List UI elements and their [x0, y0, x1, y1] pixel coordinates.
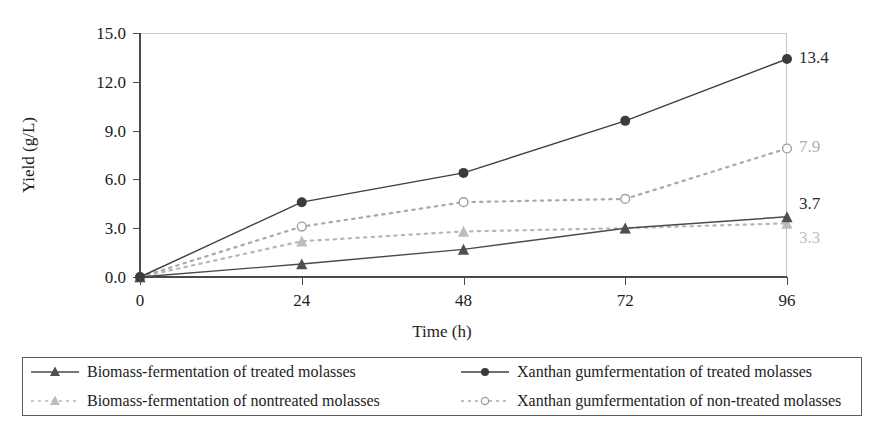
x-axis-tick-label: 24 — [282, 292, 322, 309]
x-axis-tick-label: 0 — [120, 292, 160, 309]
y-axis-tick-label: 6.0 — [105, 171, 126, 188]
x-axis-tick-label: 72 — [605, 292, 645, 309]
legend-marker-triangle-light — [29, 393, 81, 409]
x-axis-tick-label: 96 — [767, 292, 807, 309]
legend: Biomass-fermentation of treated molasses… — [22, 357, 862, 416]
x-axis-tick-label: 48 — [444, 292, 484, 309]
x-axis-tick — [787, 277, 788, 285]
legend-item-biomass-treated[interactable]: Biomass-fermentation of treated molasses — [29, 364, 459, 380]
legend-label: Xanthan gumfermentation of treated molas… — [517, 364, 812, 380]
legend-label: Xanthan gumfermentation of non-treated m… — [517, 393, 841, 409]
chart-figure: Yield (g/L) 0.03.06.09.012.015.0 0244872… — [0, 0, 884, 437]
x-axis-tick — [625, 277, 626, 285]
y-axis-tick-label: 12.0 — [96, 74, 126, 91]
legend-label: Biomass-fermentation of nontreated molas… — [87, 393, 380, 409]
legend-marker-circle-open — [459, 393, 511, 409]
legend-label: Biomass-fermentation of treated molasses — [87, 364, 356, 380]
y-axis-tick-label: 3.0 — [105, 220, 126, 237]
x-axis-tick — [140, 277, 141, 285]
plot-area — [140, 33, 787, 277]
data-point-label: 13.4 — [799, 49, 829, 66]
y-axis-tick-label: 0.0 — [105, 269, 126, 286]
legend-item-xanthan-treated[interactable]: Xanthan gumfermentation of treated molas… — [459, 364, 869, 380]
y-axis-line — [139, 33, 141, 278]
legend-item-xanthan-nontreated[interactable]: Xanthan gumfermentation of non-treated m… — [459, 393, 869, 409]
data-point-label: 7.9 — [799, 138, 820, 155]
legend-marker-triangle-filled — [29, 364, 81, 380]
data-point-label: 3.3 — [799, 229, 820, 246]
y-axis-title: Yield (g/L) — [19, 85, 39, 225]
y-axis-tick-label: 15.0 — [96, 25, 126, 42]
legend-item-biomass-nontreated[interactable]: Biomass-fermentation of nontreated molas… — [29, 393, 459, 409]
legend-marker-circle-filled — [459, 364, 511, 380]
y-axis-tick-label: 9.0 — [105, 123, 126, 140]
x-axis-tick — [302, 277, 303, 285]
x-axis-tick — [464, 277, 465, 285]
x-axis-title: Time (h) — [0, 322, 884, 342]
data-point-label: 3.7 — [799, 195, 820, 212]
